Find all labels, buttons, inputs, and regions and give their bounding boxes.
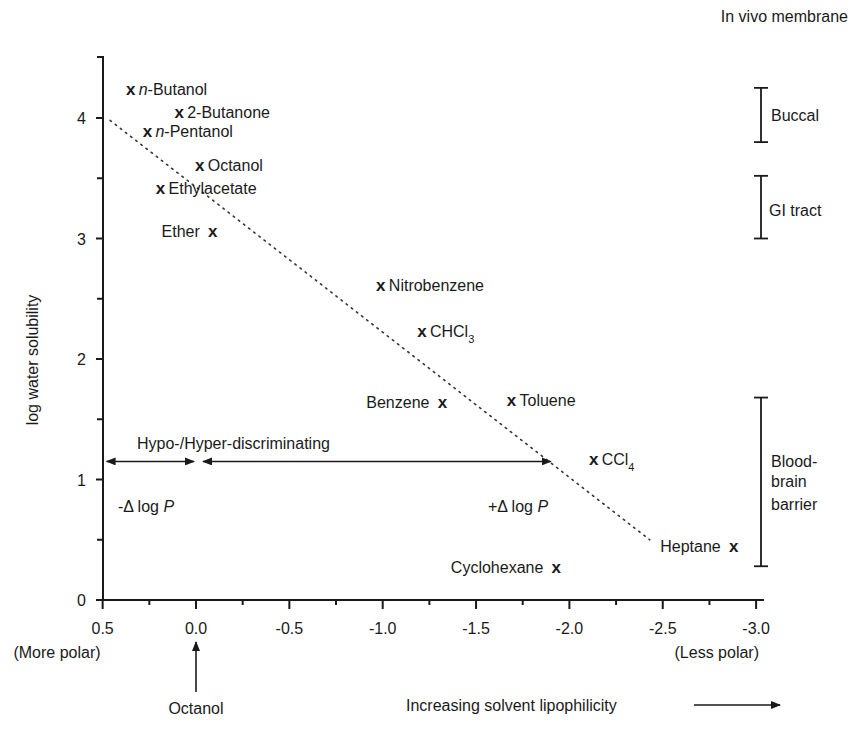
point-label: Octanol [208, 157, 263, 174]
range-label-bbb-line2: brain [771, 473, 807, 490]
y-ticks: 01234 [77, 110, 103, 609]
range-label-bbb-line3: barrier [771, 496, 818, 513]
point-label: Heptane [660, 538, 721, 555]
point-label: CHCl3 [430, 323, 474, 345]
y-tick-label: 0 [77, 592, 86, 609]
y-axis-label: log water solubility [24, 295, 41, 426]
x-tick-label: -2.0 [556, 620, 584, 637]
less-polar-label: (Less polar) [675, 644, 759, 661]
point-label: n-Pentanol [155, 123, 232, 140]
x-tick-label: -1.5 [462, 620, 490, 637]
data-point: xHeptane [660, 537, 739, 556]
x-marker-icon: x [729, 537, 739, 556]
data-point: xCCl4 [589, 450, 635, 473]
x-marker-icon: x [376, 276, 386, 295]
point-label: Ethylacetate [169, 180, 257, 197]
data-point: xn-Pentanol [143, 122, 233, 141]
x-marker-icon: x [208, 222, 218, 241]
membrane-range-bar [754, 176, 768, 239]
point-label: CCl4 [602, 451, 635, 473]
data-point: xn-Butanol [126, 80, 207, 99]
y-tick-label: 1 [77, 472, 86, 489]
point-label: Benzene [366, 394, 429, 411]
y-tick-label: 2 [77, 351, 86, 368]
x-marker-icon: x [589, 450, 599, 469]
membrane-range-bar [754, 88, 768, 142]
data-point: xOctanol [195, 156, 263, 175]
point-label: Nitrobenzene [389, 277, 484, 294]
membrane-ranges: In vivo membrane Buccal GI tract Blood- … [721, 8, 848, 566]
minus-delta-logp-label: -Δ log P [118, 498, 174, 515]
plus-delta-logp-label: +Δ log P [488, 498, 548, 515]
x-marker-icon: x [195, 156, 205, 175]
y-tick-label: 3 [77, 231, 86, 248]
x-marker-icon: x [507, 391, 517, 410]
x-axis-label: Increasing solvent lipophilicity [406, 697, 617, 714]
data-point: xEthylacetate [156, 179, 257, 198]
x-tick-label: -0.5 [276, 620, 304, 637]
point-label: Toluene [520, 392, 576, 409]
x-marker-icon: x [552, 558, 562, 577]
data-point: xEther [162, 222, 219, 241]
range-label-bbb-line1: Blood- [771, 453, 817, 470]
x-marker-icon: x [417, 322, 427, 341]
range-label-gi-tract: GI tract [769, 202, 822, 219]
more-polar-label: (More polar) [13, 644, 100, 661]
data-points: xn-Butanolx2-Butanonexn-PentanolxOctanol… [126, 80, 739, 577]
discriminating-label: Hypo-/Hyper-discriminating [137, 435, 330, 452]
point-label: Ether [162, 223, 201, 240]
range-label-buccal: Buccal [771, 107, 819, 124]
data-point: xToluene [507, 391, 576, 410]
x-marker-icon: x [438, 393, 448, 412]
x-marker-icon: x [174, 103, 184, 122]
x-marker-icon: x [156, 179, 166, 198]
x-tick-label: -3.0 [742, 620, 770, 637]
x-tick-label: 0.0 [185, 620, 207, 637]
point-label: 2-Butanone [187, 104, 270, 121]
y-tick-label: 4 [77, 110, 86, 127]
x-marker-icon: x [143, 122, 153, 141]
data-point: xCHCl3 [417, 322, 474, 345]
data-point: xNitrobenzene [376, 276, 484, 295]
data-point: xCyclohexane [451, 558, 562, 577]
x-tick-label: -1.0 [369, 620, 397, 637]
solubility-scatter-chart: 01234 0.50.0-0.5-1.0-1.5-2.0-2.5-3.0 log… [0, 0, 856, 737]
point-label: n-Butanol [139, 81, 208, 98]
x-tick-label: 0.5 [92, 620, 114, 637]
octanol-reference-label: Octanol [168, 700, 223, 717]
data-point: xBenzene [366, 393, 447, 412]
data-point: x2-Butanone [174, 103, 270, 122]
x-marker-icon: x [126, 80, 136, 99]
membrane-title: In vivo membrane [721, 8, 848, 25]
point-label: Cyclohexane [451, 559, 544, 576]
x-tick-label: -2.5 [649, 620, 677, 637]
membrane-range-bar [754, 398, 768, 567]
x-ticks: 0.50.0-0.5-1.0-1.5-2.0-2.5-3.0 [92, 600, 770, 637]
